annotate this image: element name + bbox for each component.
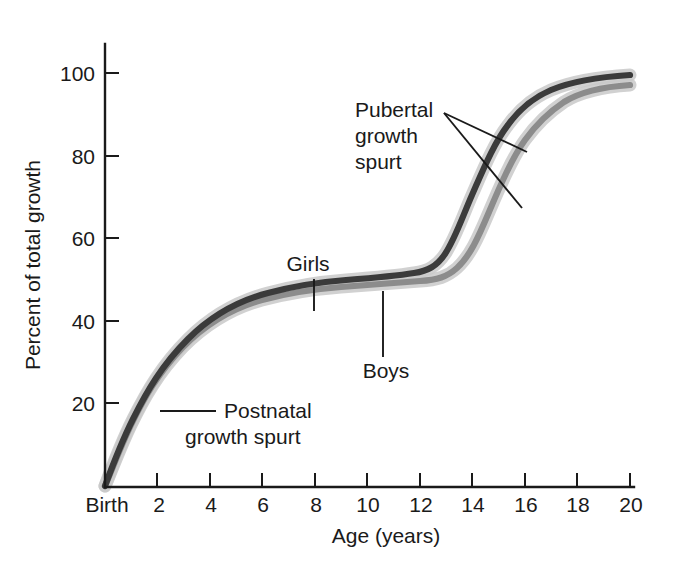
growth-curve-figure: 100 80 60 40 20 Birth 2 4 6 8 10 12 14 1… xyxy=(0,0,692,570)
x-axis-tick-labels: Birth 2 4 6 8 10 12 14 16 18 20 xyxy=(85,493,642,516)
y-tick-label-100: 100 xyxy=(60,62,95,85)
x-tick-label-20: 20 xyxy=(619,493,642,516)
girls-label: Girls xyxy=(286,252,329,275)
pubertal-annotation-line1: Pubertal xyxy=(355,98,433,121)
x-tick-label-birth: Birth xyxy=(85,493,128,516)
y-axis-title: Percent of total growth xyxy=(21,160,44,370)
x-axis-title: Age (years) xyxy=(332,524,441,547)
boys-label: Boys xyxy=(363,359,410,382)
y-tick-label-60: 60 xyxy=(72,227,95,250)
pubertal-annotation-line2: growth xyxy=(355,124,418,147)
x-tick-label-18: 18 xyxy=(566,493,589,516)
x-tick-label-4: 4 xyxy=(205,493,217,516)
y-tick-label-80: 80 xyxy=(72,145,95,168)
y-axis-tick-labels: 100 80 60 40 20 xyxy=(60,62,95,415)
postnatal-annotation-line1: Postnatal xyxy=(224,399,312,422)
postnatal-annotation-line2: growth spurt xyxy=(185,425,301,448)
chart-canvas: 100 80 60 40 20 Birth 2 4 6 8 10 12 14 1… xyxy=(0,0,692,570)
pubertal-annotation-line3: spurt xyxy=(355,150,402,173)
x-tick-label-2: 2 xyxy=(153,493,165,516)
x-tick-label-6: 6 xyxy=(257,493,269,516)
y-tick-label-40: 40 xyxy=(72,310,95,333)
x-tick-label-16: 16 xyxy=(514,493,537,516)
x-tick-label-14: 14 xyxy=(461,493,485,516)
y-axis-ticks xyxy=(105,73,119,403)
y-tick-label-20: 20 xyxy=(72,392,95,415)
x-tick-label-8: 8 xyxy=(310,493,322,516)
x-axis-ticks xyxy=(105,473,630,487)
x-tick-label-10: 10 xyxy=(356,493,379,516)
annotations: Girls Boys Pubertal growth spurt Postnat… xyxy=(160,98,527,448)
x-tick-label-12: 12 xyxy=(409,493,432,516)
